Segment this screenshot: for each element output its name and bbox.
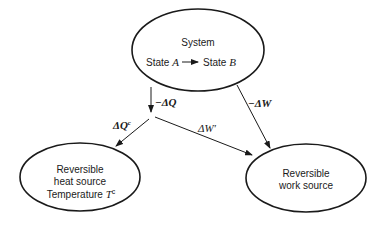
diagram-canvas: System State A State B −ΔQ −ΔW ΔQc ΔW′ R…	[0, 0, 389, 225]
system-title: System	[178, 37, 218, 49]
work-source-line1: Reversible	[276, 168, 336, 180]
dwprime-label: ΔW′	[198, 122, 216, 134]
state-a-var: A	[172, 56, 179, 68]
state-b-label: State B	[203, 56, 236, 69]
heat-source-line1: Reversible	[50, 164, 110, 176]
state-a-label: State A	[146, 56, 179, 69]
dqc-base: ΔQ	[113, 119, 128, 131]
state-b-var: B	[229, 56, 236, 68]
dqc-sup: c	[128, 119, 131, 127]
temperature-prefix: Temperature	[47, 189, 103, 200]
temperature-sup: c	[112, 188, 116, 195]
dqc-label: ΔQc	[113, 119, 131, 131]
state-b-prefix: State	[203, 57, 226, 68]
minus-dw-arrow	[237, 85, 270, 148]
heat-source-line2: heat source	[45, 176, 115, 188]
minus-dq-label: −ΔQ	[155, 96, 177, 108]
minus-dw-label: −ΔW	[248, 97, 271, 109]
state-a-prefix: State	[146, 57, 169, 68]
work-source-line2: work source	[271, 180, 341, 192]
system-node	[132, 9, 264, 91]
heat-source-line3: Temperature Tc	[40, 188, 122, 201]
